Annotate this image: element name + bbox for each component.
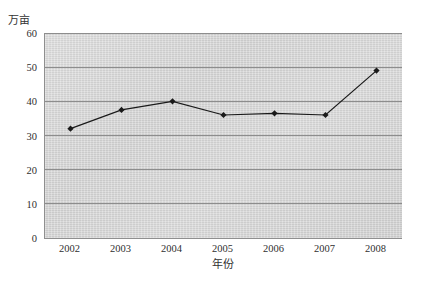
y-axis-tick: 40 [27,96,38,107]
x-axis-tick-labels: 2002200320042005200620072008 [44,242,401,256]
x-axis-tick: 2002 [59,242,80,255]
data-point-marker [67,126,73,132]
plot-area [44,33,402,239]
data-point-marker [220,112,226,118]
series-line [71,71,377,129]
data-point-marker [271,110,277,116]
series-layer [45,33,402,238]
y-axis-tick: 60 [27,28,38,39]
x-axis-tick: 2006 [263,242,284,255]
x-axis-tick: 2007 [314,242,335,255]
data-point-marker [118,107,124,113]
y-axis-unit-label: 万亩 [8,14,30,27]
x-axis-title: 年份 [44,258,401,271]
x-axis-tick: 2004 [161,242,182,255]
x-axis-tick: 2008 [365,242,386,255]
y-axis-tick: 0 [32,233,37,244]
y-axis-tick: 10 [27,198,38,209]
y-axis-tick: 20 [27,164,38,175]
x-axis-tick: 2003 [110,242,131,255]
x-axis-tick: 2005 [212,242,233,255]
line-chart: 万亩 0102030405060 20022003200420052006200… [0,0,426,287]
y-axis-tick: 30 [27,130,38,141]
y-axis-tick-labels: 0102030405060 [0,33,40,238]
scan-artifact-bottom [95,271,365,285]
data-point-marker [169,98,175,104]
y-axis-tick: 50 [27,62,38,73]
